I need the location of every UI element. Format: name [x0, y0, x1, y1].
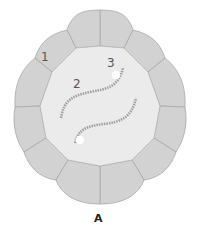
dot-lower	[76, 136, 84, 144]
figure-caption: A	[94, 212, 103, 225]
label-3: 3	[107, 56, 115, 70]
dot-upper	[112, 71, 120, 79]
label-2: 2	[73, 77, 81, 91]
cell-cluster-diagram	[0, 0, 201, 229]
label-1: 1	[41, 50, 49, 64]
